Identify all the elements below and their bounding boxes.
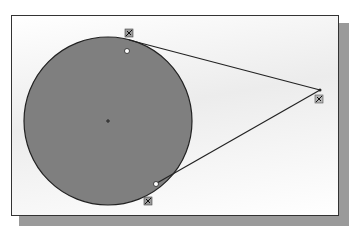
coincident-constraint-icon[interactable] — [154, 182, 159, 187]
coincident-constraint-icon[interactable] — [125, 49, 130, 54]
tangent-constraint-icon[interactable] — [144, 197, 152, 205]
endpoint-constraint-icon[interactable] — [315, 95, 323, 103]
tangent-constraint-icon[interactable] — [125, 29, 133, 37]
sketch-geometry — [0, 0, 351, 229]
external-point[interactable] — [319, 89, 322, 92]
